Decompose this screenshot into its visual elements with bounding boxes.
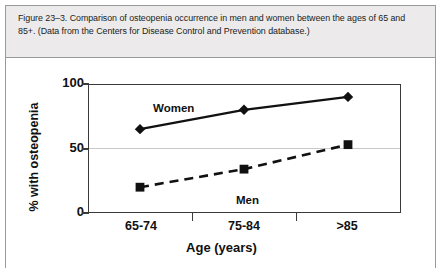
series-men [136, 140, 353, 191]
chart-plot-panel: % with osteopenia 100 50 0 65-74 75-84 >… [6, 58, 435, 268]
figure-caption-area: Figure 23–3. Comparison of osteopenia oc… [6, 6, 435, 58]
data-point-men-75-84 [240, 165, 249, 174]
data-point-men->85 [344, 140, 353, 149]
series-label-women: Women [153, 102, 194, 114]
data-point-men-65-74 [136, 183, 145, 192]
series-label-men: Men [236, 194, 259, 206]
figure-caption-text: Figure 23–3. Comparison of osteopenia oc… [18, 12, 422, 38]
data-point-women-65-74 [135, 124, 145, 134]
data-point-women-75-84 [239, 105, 249, 115]
figure-container: Figure 23–3. Comparison of osteopenia oc… [5, 5, 436, 268]
chart-series-layer [6, 58, 435, 268]
data-point-women->85 [343, 92, 353, 102]
